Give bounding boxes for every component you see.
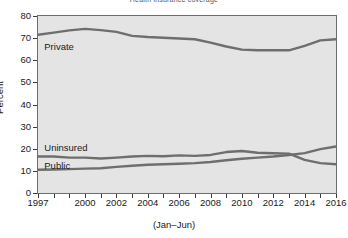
y-axis-label: Percent (0, 81, 5, 114)
x-tick-mark (85, 194, 86, 198)
x-tick-mark (179, 194, 180, 198)
x-tick-mark (132, 194, 133, 198)
x-tick-mark (69, 194, 70, 198)
x-tick-mark (195, 194, 196, 198)
chart-figure: Health insurance coverage Percent 010203… (0, 0, 348, 238)
x-tick-mark (226, 194, 227, 198)
x-axis-label: (Jan–Jun) (0, 219, 348, 230)
series-label-private: Private (44, 42, 74, 52)
x-tick-mark (289, 194, 290, 198)
x-tick-label: 2012 (258, 198, 288, 208)
x-tick-mark (336, 194, 337, 198)
series-lines (38, 16, 336, 193)
x-tick-label: 1997 (23, 198, 53, 208)
series-label-uninsured: Uninsured (44, 143, 87, 153)
y-tick-label: 30 (7, 122, 31, 131)
x-tick-mark (320, 194, 321, 198)
y-tick-label: 10 (7, 166, 31, 175)
x-tick-mark (54, 194, 55, 198)
x-tick-mark (305, 194, 306, 198)
series-line-uninsured (38, 151, 336, 164)
x-tick-mark (211, 194, 212, 198)
y-tick-label: 70 (7, 33, 31, 42)
series-line-private (38, 29, 336, 50)
x-tick-mark (101, 194, 102, 198)
x-tick-mark (38, 194, 39, 198)
x-tick-mark (148, 194, 149, 198)
x-tick-label: 2004 (133, 198, 163, 208)
x-tick-mark (258, 194, 259, 198)
x-tick-label: 2010 (227, 198, 257, 208)
x-tick-label: 2006 (164, 198, 194, 208)
y-tick-label: 40 (7, 100, 31, 109)
y-tick-label: 20 (7, 144, 31, 153)
x-tick-label: 2008 (196, 198, 226, 208)
x-tick-label: 2000 (70, 198, 100, 208)
y-tick-label: 0 (7, 188, 31, 197)
plot-area (37, 15, 337, 194)
x-tick-mark (242, 194, 243, 198)
x-tick-label: 2014 (290, 198, 320, 208)
y-tick-label: 50 (7, 77, 31, 86)
x-tick-mark (116, 194, 117, 198)
chart-title: Health insurance coverage (0, 0, 348, 4)
y-tick-label: 80 (7, 11, 31, 20)
y-tick-label: 60 (7, 55, 31, 64)
x-tick-label: 2016 (321, 198, 348, 208)
x-tick-mark (273, 194, 274, 198)
x-tick-label: 2002 (101, 198, 131, 208)
series-label-public: Public (44, 161, 70, 171)
x-tick-mark (163, 194, 164, 198)
